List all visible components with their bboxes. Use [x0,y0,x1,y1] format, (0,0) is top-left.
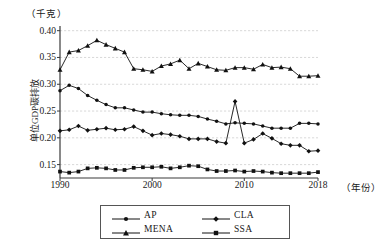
data-point-circle [160,112,164,116]
data-point-square [141,165,145,169]
data-point-square [104,167,108,171]
data-point-square [289,171,293,175]
data-point-circle [141,110,145,114]
data-point-square [224,169,228,173]
data-point-diamond [260,131,265,136]
data-point-triangle [196,61,201,66]
data-point-square [206,168,210,172]
data-point-diamond [85,128,90,133]
data-point-diamond [297,143,302,148]
data-point-square [307,171,311,175]
data-point-circle [187,114,191,118]
data-point-circle [95,99,99,103]
legend-grid: APCLAMENASSA [105,208,285,236]
data-point-diamond [224,141,229,146]
data-point-diamond [242,141,247,146]
data-point-square [113,168,117,172]
data-point-circle [233,121,237,125]
data-point-circle [279,126,283,130]
data-point-triangle [104,42,109,47]
data-point-square [270,171,274,175]
data-point-diamond [196,137,201,142]
data-point-square [252,169,256,173]
data-point-triangle [58,67,63,72]
data-point-circle [132,108,136,112]
data-point-triangle [76,48,81,53]
data-point-circle [206,117,210,121]
data-point-square [123,168,127,172]
data-point-square [316,170,320,174]
data-point-circle [178,114,182,118]
data-point-square [215,169,219,173]
data-point-circle [243,122,247,126]
data-point-triangle [168,61,173,66]
data-point-square [187,164,191,168]
series-SSA [58,164,320,175]
data-point-diamond [213,216,219,222]
data-point-square [67,171,71,175]
data-point-circle [67,84,71,88]
legend-item-cla[interactable]: CLA [195,208,285,222]
gridlines [60,31,318,165]
legend-item-mena[interactable]: MENA [105,222,195,236]
legend-label: MENA [144,224,173,234]
data-point-diamond [233,99,238,104]
data-point-square [298,171,302,175]
legend-item-ap[interactable]: AP [105,208,195,222]
series-AP [58,84,320,130]
data-point-square [132,166,136,170]
data-point-triangle [94,38,99,43]
data-point-square [86,167,90,171]
data-point-diamond [187,137,192,142]
data-point-circle [252,122,256,126]
data-point-square [261,170,265,174]
data-point-diamond [122,127,127,132]
data-point-square [233,169,237,173]
data-point-circle [86,94,90,98]
legend-marker-square-icon [201,224,231,234]
data-point-diamond [205,137,210,142]
series-CLA [58,99,321,153]
data-point-diamond [113,127,118,132]
data-point-diamond [168,132,173,137]
legend-marker-circle-icon [111,210,141,220]
data-point-diamond [67,127,72,132]
data-point-diamond [306,149,311,154]
data-point-square [169,167,173,171]
data-point-square [214,231,218,235]
chart-legend: APCLAMENASSA [100,205,290,239]
series-MENA [58,38,321,78]
data-point-circle [215,119,219,123]
data-point-square [77,170,81,174]
data-point-circle [261,124,265,128]
data-point-diamond [58,129,63,134]
data-point-circle [124,217,128,221]
legend-label: CLA [234,210,254,220]
data-point-triangle [177,58,182,63]
x-tick-label: 2000 [143,180,162,190]
data-point-circle [58,89,62,93]
legend-label: SSA [234,224,252,234]
data-point-diamond [288,143,293,148]
data-point-square [279,171,283,175]
data-point-square [95,166,99,170]
data-point-circle [123,106,127,110]
data-point-square [196,164,200,168]
data-point-diamond [104,126,109,131]
data-point-square [58,170,62,174]
data-point-diamond [95,127,100,132]
chart-figure: （千克） 单位GDP碳排放 0.400.350.300.250.200.15 1… [0,0,389,251]
x-tick-label: 1990 [51,180,70,190]
data-point-circle [289,126,293,130]
data-point-circle [224,122,228,126]
data-point-square [178,165,182,169]
data-point-triangle [260,62,265,67]
data-point-diamond [76,124,81,129]
axis-lines [57,26,318,181]
data-point-square [150,165,154,169]
data-point-diamond [214,139,219,144]
data-point-circle [114,106,118,110]
data-point-circle [196,115,200,119]
legend-item-ssa[interactable]: SSA [195,222,285,236]
data-point-circle [104,103,108,107]
